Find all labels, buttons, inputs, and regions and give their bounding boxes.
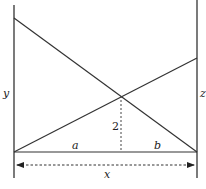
label-crossing-height: 2 bbox=[112, 120, 119, 133]
descending-ladder bbox=[14, 18, 197, 152]
label-y: y bbox=[2, 87, 10, 100]
label-a: a bbox=[72, 139, 79, 152]
ascending-ladder bbox=[14, 58, 197, 152]
label-b: b bbox=[154, 139, 161, 152]
label-x: x bbox=[104, 168, 111, 181]
crossed-ladders-diagram: y z a b 2 x bbox=[0, 0, 206, 189]
label-z: z bbox=[199, 87, 206, 100]
